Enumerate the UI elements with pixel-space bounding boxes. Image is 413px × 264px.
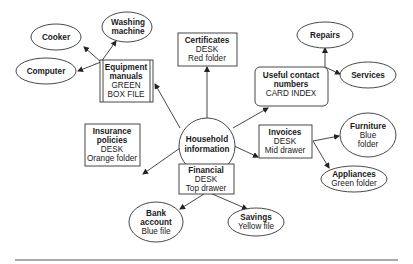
svg-text:Services: Services [351, 71, 385, 80]
node-furniture[interactable]: Furniture Blue folder [340, 113, 396, 157]
node-bank-account[interactable]: Bank account Blue file [129, 202, 183, 242]
svg-text:Orange folder: Orange folder [87, 154, 137, 163]
svg-text:GREEN: GREEN [111, 81, 140, 90]
svg-text:account: account [140, 218, 172, 227]
svg-text:Invoices: Invoices [269, 128, 302, 137]
svg-text:Blue: Blue [360, 131, 377, 140]
svg-text:Red folder: Red folder [188, 54, 226, 63]
svg-text:DESK: DESK [101, 145, 124, 154]
node-appliances[interactable]: Appliances Green folder [321, 166, 387, 192]
svg-text:manuals: manuals [109, 72, 143, 81]
svg-text:BOX FILE: BOX FILE [108, 90, 145, 99]
svg-text:Repairs: Repairs [310, 31, 340, 40]
svg-text:DESK: DESK [274, 137, 297, 146]
svg-text:DESK: DESK [196, 45, 219, 54]
svg-text:Top drawer: Top drawer [186, 184, 227, 193]
household-mind-map: Household information Certificates DESK … [0, 0, 413, 264]
node-equipment-manuals[interactable]: Equipment manuals GREEN BOX FILE [100, 60, 153, 102]
svg-text:policies: policies [97, 136, 128, 145]
svg-text:Useful contact: Useful contact [263, 71, 320, 80]
svg-text:Mid drawer: Mid drawer [265, 146, 306, 155]
node-services[interactable]: Services [340, 62, 396, 88]
svg-text:Green folder: Green folder [331, 179, 377, 188]
svg-text:Yellow file: Yellow file [238, 222, 275, 231]
svg-text:Cooker: Cooker [42, 33, 71, 42]
node-savings[interactable]: Savings Yellow file [228, 208, 284, 236]
svg-text:Washing: Washing [111, 18, 145, 27]
svg-text:machine: machine [111, 27, 145, 36]
svg-text:Financial: Financial [188, 166, 224, 175]
svg-text:Blue file: Blue file [141, 227, 171, 236]
center-label: Household [186, 135, 228, 144]
svg-text:Savings: Savings [240, 213, 272, 222]
node-computer[interactable]: Computer [16, 58, 76, 84]
node-repairs[interactable]: Repairs [297, 22, 353, 48]
node-certificates[interactable]: Certificates DESK Red folder [178, 33, 237, 66]
svg-text:CARD INDEX: CARD INDEX [266, 89, 317, 98]
svg-text:Computer: Computer [27, 67, 66, 76]
svg-text:Bank: Bank [146, 209, 166, 218]
node-useful-contacts[interactable]: Useful contact numbers CARD INDEX [255, 67, 328, 106]
node-cooker[interactable]: Cooker [31, 24, 81, 50]
svg-text:Appliances: Appliances [332, 170, 376, 179]
svg-text:DESK: DESK [195, 175, 218, 184]
node-insurance-policies[interactable]: Insurance policies DESK Orange folder [85, 124, 140, 166]
svg-text:Insurance: Insurance [93, 127, 132, 136]
node-washing-machine[interactable]: Washing machine [102, 12, 152, 42]
svg-text:numbers: numbers [274, 80, 309, 89]
node-financial[interactable]: Financial DESK Top drawer [179, 164, 234, 194]
svg-text:folder: folder [358, 140, 379, 149]
svg-text:Furniture: Furniture [350, 122, 386, 131]
center-label: information [184, 145, 229, 154]
svg-text:Certificates: Certificates [185, 36, 230, 45]
node-invoices[interactable]: Invoices DESK Mid drawer [259, 125, 312, 158]
svg-text:Equipment: Equipment [105, 63, 148, 72]
